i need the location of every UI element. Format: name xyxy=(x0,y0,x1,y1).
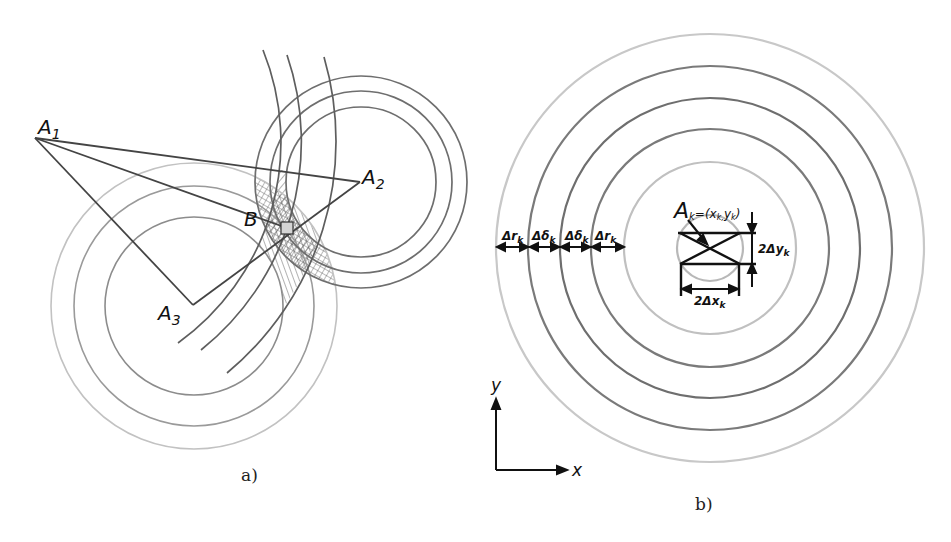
label-a1: A1 xyxy=(36,115,61,142)
caption-a: a) xyxy=(241,465,258,485)
caption-b: b) xyxy=(695,494,713,514)
figure: A1 A2 A3 B a) Δrk Δδk xyxy=(0,0,951,542)
label-ak: Ak=(xk,yk) xyxy=(672,198,740,223)
dx-dimension xyxy=(682,285,738,293)
label-b: B xyxy=(244,207,258,231)
axes xyxy=(492,399,567,474)
panel-a: A1 A2 A3 B a) xyxy=(35,50,467,485)
point-b-marker xyxy=(281,222,293,234)
label-delta-r-2: Δrk xyxy=(594,229,617,245)
label-delta-delta-1: Δδk xyxy=(531,229,557,245)
axis-label-x: x xyxy=(571,460,583,480)
label-2dy: 2Δyk xyxy=(758,242,790,258)
panel-b: Δrk Δδk Δδk Δrk 2Δxk 2Δyk xyxy=(490,34,924,514)
label-delta-delta-2: Δδk xyxy=(564,229,590,245)
label-a3: A3 xyxy=(156,301,181,328)
label-a2: A2 xyxy=(360,165,385,192)
axis-label-y: y xyxy=(490,375,502,395)
label-delta-r-1: Δrk xyxy=(501,229,524,245)
label-2dx: 2Δxk xyxy=(694,294,726,310)
dy-dimension xyxy=(748,212,756,287)
